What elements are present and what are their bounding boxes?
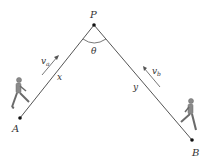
walker-left-figure — [12, 78, 29, 109]
related-rates-diagram: P A B θ x y va vb — [0, 0, 207, 161]
angle-arc — [83, 39, 106, 43]
label-x: x — [57, 72, 62, 82]
label-p: P — [89, 9, 97, 20]
label-b: B — [191, 147, 199, 158]
point-b — [190, 138, 194, 142]
label-vb: vb — [152, 66, 161, 77]
segment-bp — [94, 25, 192, 140]
point-a — [18, 116, 22, 120]
label-va: va — [41, 56, 50, 67]
label-theta: θ — [91, 46, 97, 56]
label-y: y — [132, 82, 139, 92]
walker-right-figure — [181, 99, 196, 131]
point-p — [92, 23, 96, 27]
label-a: A — [11, 123, 19, 134]
